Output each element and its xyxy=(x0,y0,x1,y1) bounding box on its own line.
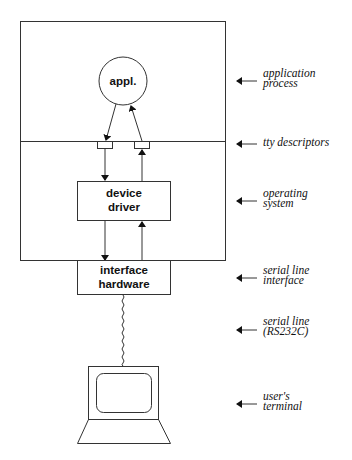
svg-text:system: system xyxy=(263,197,294,210)
annotation-tty-descriptors: tty descriptors xyxy=(237,136,330,149)
annotation-serial-line-rs232c: serial line (RS232C) xyxy=(237,315,309,338)
tty-descriptor-out xyxy=(98,142,113,149)
arrow-appl-to-descriptor xyxy=(106,104,116,140)
application-process-node: appl. xyxy=(99,57,147,105)
interface-hardware-label-2: hardware xyxy=(98,278,149,290)
interface-hardware-box: interface hardware xyxy=(78,261,171,295)
svg-text:interface: interface xyxy=(263,274,304,287)
svg-text:process: process xyxy=(262,77,298,90)
annotation-serial-line-interface: serial line interface xyxy=(237,264,309,287)
annotation-application-process: application process xyxy=(237,67,316,90)
arrow-descriptor-to-appl xyxy=(131,106,142,141)
annotation-operating-system: operating system xyxy=(237,187,308,210)
device-driver-label-2: driver xyxy=(108,201,140,213)
svg-text:(RS232C): (RS232C) xyxy=(263,325,309,338)
tty-architecture-diagram: appl. device driver interface hardware a… xyxy=(0,0,352,460)
terminal-icon xyxy=(78,367,171,444)
annotation-users-terminal: user's terminal xyxy=(237,390,302,412)
device-driver-box: device driver xyxy=(78,182,171,221)
interface-hardware-label-1: interface xyxy=(100,264,148,276)
serial-line-wave xyxy=(122,295,124,366)
svg-text:tty descriptors: tty descriptors xyxy=(263,136,330,149)
tty-descriptor-in xyxy=(135,142,150,149)
device-driver-label-1: device xyxy=(106,187,142,199)
svg-text:terminal: terminal xyxy=(263,400,302,412)
appl-label: appl. xyxy=(110,75,137,87)
